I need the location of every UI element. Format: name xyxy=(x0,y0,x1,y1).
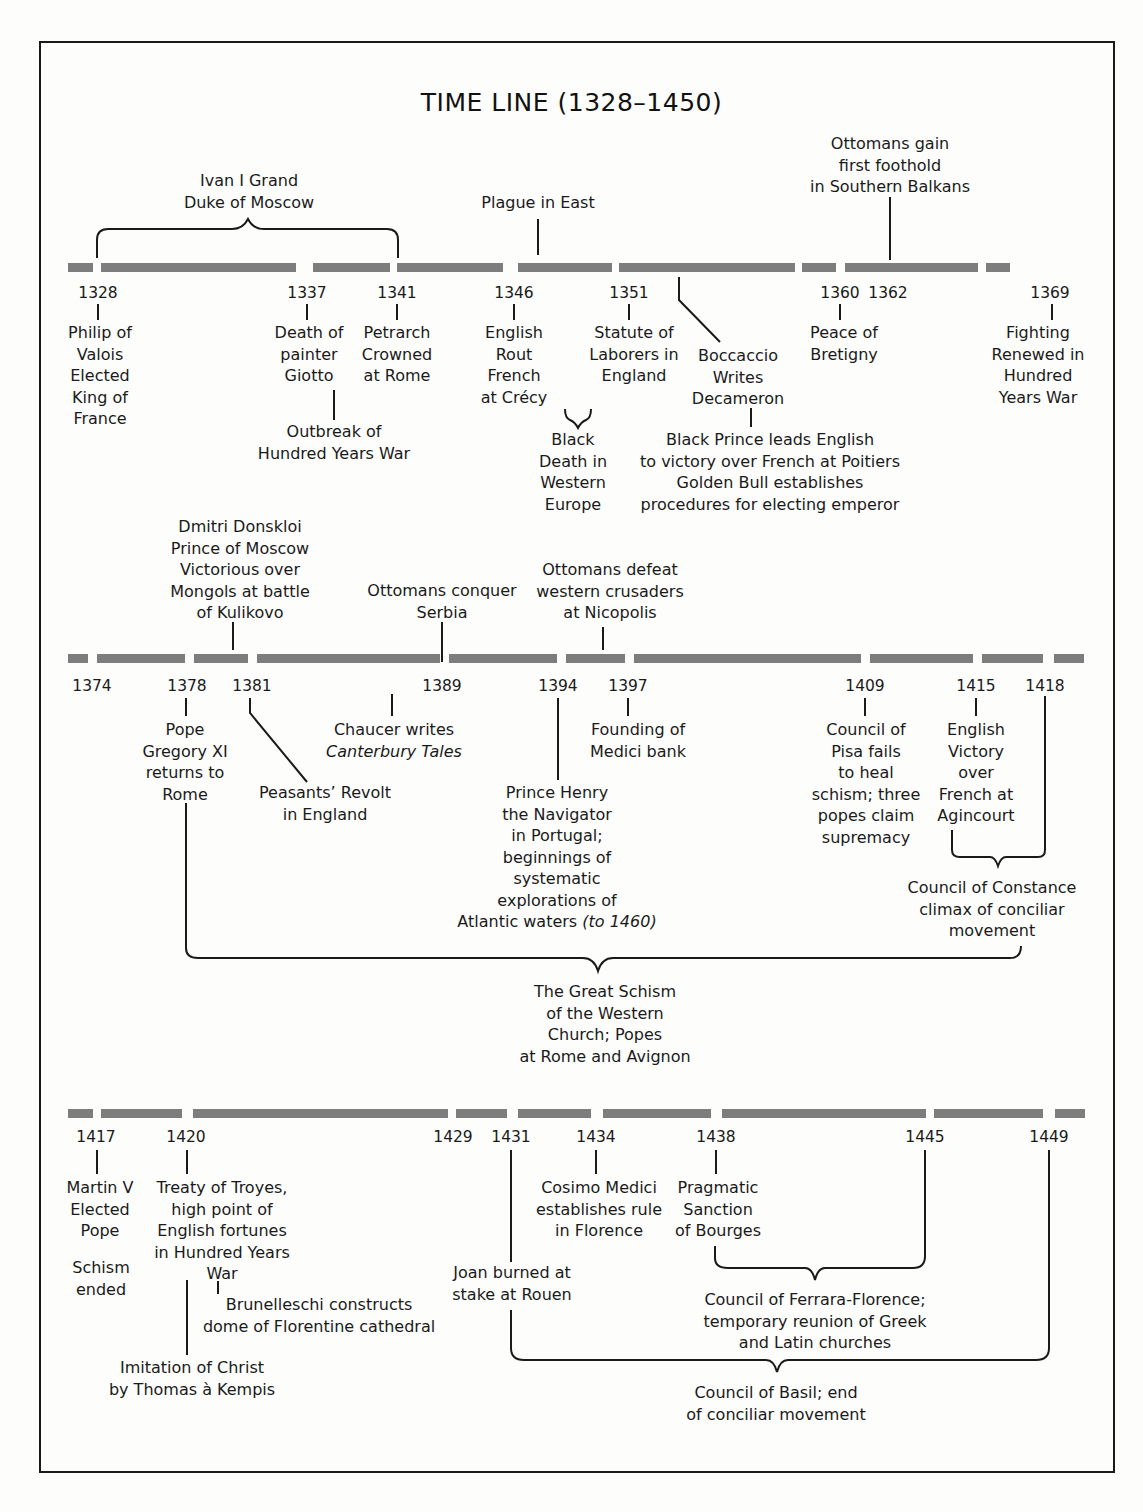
bar-segment xyxy=(619,263,795,272)
event-ottomans-nicopolis: Ottomans defeat western crusaders at Nic… xyxy=(536,559,683,624)
bar-segment xyxy=(193,1109,448,1118)
year-label-1415: 1415 xyxy=(956,677,995,695)
event-black-death: Black Death in Western Europe xyxy=(539,429,607,515)
event-ivan-grand-duke: Ivan I Grand Duke of Moscow xyxy=(184,170,314,213)
event-brunelleschi-dome: Brunelleschi constructs dome of Florenti… xyxy=(203,1294,435,1337)
event-agincourt: English Victory over French at Agincourt xyxy=(937,719,1014,827)
year-label-1409: 1409 xyxy=(845,677,884,695)
event-death-of-giotto: Death of painter Giotto xyxy=(275,322,344,387)
event-petrarch-crowned: Petrarch Crowned at Rome xyxy=(362,322,432,387)
event-gregory-xi-returns: Pope Gregory XI returns to Rome xyxy=(142,719,227,805)
event-council-of-basil: Council of Basil; end of conciliar movem… xyxy=(686,1382,865,1425)
event-council-of-constance: Council of Constance climax of conciliar… xyxy=(908,877,1077,942)
event-outbreak-hundred-years-war: Outbreak of Hundred Years War xyxy=(258,421,410,464)
event-joan-burned: Joan burned at stake at Rouen xyxy=(452,1262,572,1305)
year-label-1434: 1434 xyxy=(576,1128,615,1146)
event-schism-ended: Schism ended xyxy=(72,1257,129,1300)
bar-segment xyxy=(194,654,248,663)
event-martin-v-elected: Martin V Elected Pope xyxy=(66,1177,133,1242)
event-treaty-of-troyes: Treaty of Troyes, high point of English … xyxy=(154,1177,290,1285)
event-peasants-revolt: Peasants’ Revolt in England xyxy=(259,782,391,825)
year-label-1431: 1431 xyxy=(491,1128,530,1146)
bar-segment xyxy=(566,654,625,663)
event-prince-henry-navigator: Prince Henry the Navigator in Portugal; … xyxy=(457,782,656,933)
event-peace-of-bretigny: Peace of Bretigny xyxy=(810,322,878,365)
year-label-1346: 1346 xyxy=(494,284,533,302)
bar-segment xyxy=(68,1109,93,1118)
year-label-1362: 1362 xyxy=(868,284,907,302)
year-label-1328: 1328 xyxy=(78,284,117,302)
bar-segment xyxy=(456,1109,507,1118)
bar-segment xyxy=(722,1109,926,1118)
bar-segment xyxy=(68,263,93,272)
event-founding-medici-bank: Founding of Medici bank xyxy=(590,719,686,762)
event-pragmatic-sanction: Pragmatic Sanction of Bourges xyxy=(675,1177,761,1242)
event-great-schism: The Great Schism of the Western Church; … xyxy=(519,981,690,1067)
year-label-1445: 1445 xyxy=(905,1128,944,1146)
year-label-1394: 1394 xyxy=(538,677,577,695)
event-fighting-renewed: Fighting Renewed in Hundred Years War xyxy=(992,322,1085,408)
bar-segment xyxy=(634,654,861,663)
bar-segment xyxy=(1055,1109,1085,1118)
bar-segment xyxy=(986,263,1010,272)
year-label-1397: 1397 xyxy=(608,677,647,695)
diagram-title: TIME LINE (1328–1450) xyxy=(0,88,1143,117)
event-dmitri-donskoi-kulikovo: Dmitri Donskloi Prince of Moscow Victori… xyxy=(170,516,310,624)
year-label-1378: 1378 xyxy=(167,677,206,695)
year-label-1337: 1337 xyxy=(287,284,326,302)
bar-segment xyxy=(68,654,88,663)
bar-segment xyxy=(518,1109,591,1118)
bar-segment xyxy=(101,263,296,272)
year-label-1418: 1418 xyxy=(1025,677,1064,695)
year-label-1429: 1429 xyxy=(433,1128,472,1146)
event-council-ferrara-florence: Council of Ferrara-Florence; temporary r… xyxy=(703,1289,926,1354)
year-label-1374: 1374 xyxy=(72,677,111,695)
bar-segment xyxy=(982,654,1043,663)
event-ottomans-conquer-serbia: Ottomans conquer Serbia xyxy=(367,580,516,623)
event-plague-in-east: Plague in East xyxy=(481,192,594,214)
event-philip-of-valois: Philip of Valois Elected King of France xyxy=(68,322,132,430)
year-label-1341: 1341 xyxy=(377,284,416,302)
bar-segment xyxy=(1054,654,1084,663)
year-label-1420: 1420 xyxy=(166,1128,205,1146)
year-label-1389: 1389 xyxy=(422,677,461,695)
year-label-1351: 1351 xyxy=(609,284,648,302)
event-chaucer-canterbury-tales: Chaucer writes Canterbury Tales xyxy=(326,719,462,762)
year-label-1449: 1449 xyxy=(1029,1128,1068,1146)
year-label-1381: 1381 xyxy=(232,677,271,695)
bar-segment xyxy=(870,654,973,663)
event-crecy: English Rout French at Crécy xyxy=(481,322,548,408)
event-black-prince-golden-bull: Black Prince leads English to victory ov… xyxy=(640,429,900,515)
bar-segment xyxy=(449,654,557,663)
event-statute-of-laborers: Statute of Laborers in England xyxy=(589,322,678,387)
bar-segment xyxy=(97,654,185,663)
event-boccaccio-decameron: Boccaccio Writes Decameron xyxy=(692,345,784,410)
timeline-page: TIME LINE (1328–1450) 1328 1337 1341 134… xyxy=(0,0,1143,1512)
bar-segment xyxy=(845,263,978,272)
bar-segment xyxy=(313,263,390,272)
year-label-1438: 1438 xyxy=(696,1128,735,1146)
bar-segment xyxy=(603,1109,711,1118)
bar-segment xyxy=(397,263,503,272)
event-ottomans-foothold: Ottomans gain first foothold in Southern… xyxy=(810,133,970,198)
bar-segment xyxy=(257,654,440,663)
bar-segment xyxy=(934,1109,1043,1118)
year-label-1417: 1417 xyxy=(76,1128,115,1146)
year-label-1369: 1369 xyxy=(1030,284,1069,302)
event-council-of-pisa: Council of Pisa fails to heal schism; th… xyxy=(812,719,920,848)
bar-segment xyxy=(101,1109,182,1118)
year-label-1360: 1360 xyxy=(820,284,859,302)
event-cosimo-medici: Cosimo Medici establishes rule in Floren… xyxy=(536,1177,662,1242)
event-imitation-of-christ: Imitation of Christ by Thomas à Kempis xyxy=(109,1357,275,1400)
bar-segment xyxy=(518,263,612,272)
bar-segment xyxy=(802,263,836,272)
